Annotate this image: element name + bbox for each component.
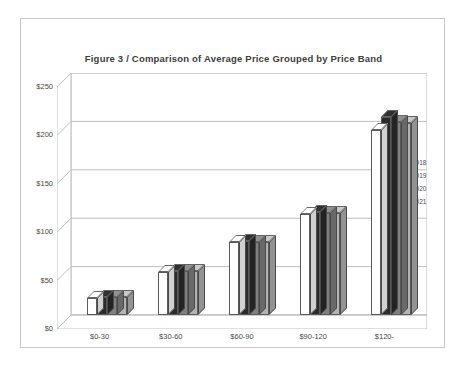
bar-side (259, 235, 266, 315)
y-axis-tick-label: $100 (36, 228, 53, 236)
bar-side (330, 206, 337, 315)
plot-area: $0$50$100$150$200$250 $0-30$30-60$60-90$… (57, 73, 427, 329)
bar-face (371, 130, 381, 315)
x-axis-tick-label: $30-60 (159, 333, 182, 341)
y-axis-tick-label: $250 (36, 83, 53, 91)
bar-side (340, 206, 347, 315)
bar-side (188, 264, 195, 315)
bar-2018-$90-120 (300, 214, 310, 315)
bar-2018-$0-30 (87, 298, 97, 315)
bar-side (269, 235, 276, 315)
bar-side (391, 110, 398, 315)
bar-side (249, 234, 256, 315)
bar-side (168, 265, 175, 315)
bar-side (239, 235, 246, 315)
bar-side (411, 116, 418, 315)
bar-side (320, 205, 327, 315)
bar-2018-$120- (371, 130, 381, 315)
y-axis-tick-label: $0 (45, 325, 53, 333)
y-axis-tick-label: $150 (36, 180, 53, 188)
bar-side (401, 115, 408, 315)
figure-panel: Figure 3 / Comparison of Average Price G… (20, 18, 445, 348)
bar-side (381, 123, 388, 315)
x-axis-tick-label: $120- (375, 333, 394, 341)
chart-title: Figure 3 / Comparison of Average Price G… (21, 53, 446, 64)
bar-side (310, 207, 317, 315)
x-axis-tick-label: $90-120 (299, 333, 327, 341)
bar-face (87, 298, 97, 315)
bar-face (229, 242, 239, 315)
bar-face (300, 214, 310, 315)
x-axis-tick-label: $0-30 (90, 333, 109, 341)
x-axis-tick-label: $60-90 (230, 333, 253, 341)
bar-2018-$30-60 (158, 272, 168, 315)
bar-2018-$60-90 (229, 242, 239, 315)
bar-face (158, 272, 168, 315)
bar-side (178, 264, 185, 315)
y-axis-tick-label: $200 (36, 132, 53, 140)
bar-side (198, 264, 205, 315)
y-axis-tick-label: $50 (40, 277, 53, 285)
